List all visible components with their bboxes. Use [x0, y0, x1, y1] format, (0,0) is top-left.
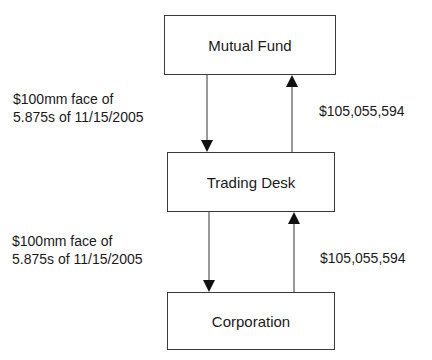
node-corporation: Corporation: [167, 292, 335, 350]
arrow-desk-to-fund: [286, 75, 298, 152]
node-label: Mutual Fund: [208, 37, 291, 54]
edge-label-line: $100mm face of: [13, 90, 144, 108]
edge-label-text: $105,055,594: [320, 250, 406, 266]
edge-label-desk-to-corp: $100mm face of 5.875s of 11/15/2005: [12, 232, 143, 268]
edge-label-line: $100mm face of: [12, 232, 143, 250]
node-label: Trading Desk: [207, 174, 296, 191]
arrow-desk-to-corp: [203, 212, 215, 292]
edge-label-line: 5.875s of 11/15/2005: [12, 250, 143, 268]
arrow-corp-to-desk: [288, 212, 300, 292]
node-label: Corporation: [212, 313, 290, 330]
node-mutual-fund: Mutual Fund: [164, 15, 336, 75]
arrow-fund-to-desk: [201, 75, 213, 152]
node-trading-desk: Trading Desk: [167, 152, 335, 212]
edge-label-text: $105,055,594: [319, 103, 405, 119]
edge-label-line: 5.875s of 11/15/2005: [13, 108, 144, 126]
edge-label-fund-to-desk: $100mm face of 5.875s of 11/15/2005: [13, 90, 144, 126]
edge-label-desk-to-fund: $105,055,594: [319, 102, 405, 120]
edge-label-corp-to-desk: $105,055,594: [320, 249, 406, 267]
